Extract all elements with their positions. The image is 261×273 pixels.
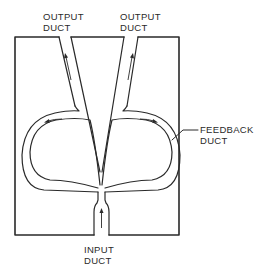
- arrow-up-icon: [100, 208, 104, 228]
- output-duct-label-left-line1: OUTPUT: [43, 11, 84, 22]
- feedback-duct-label-line1: FEEDBACK: [200, 124, 254, 135]
- output-duct-label-left: OUTPUT DUCT: [43, 11, 84, 33]
- output-duct-label-right: OUTPUT DUCT: [120, 11, 161, 33]
- feedback-duct-label-line2: DUCT: [200, 135, 254, 146]
- housing-box: [15, 37, 179, 235]
- feedback-duct-label: FEEDBACK DUCT: [200, 124, 254, 146]
- output-duct-label-left-line2: DUCT: [43, 22, 84, 33]
- output-duct-label-right-line1: OUTPUT: [120, 11, 161, 22]
- output-duct-label-right-line2: DUCT: [120, 22, 161, 33]
- input-duct-label-line1: INPUT: [84, 244, 114, 255]
- flow-arrows: [44, 53, 158, 228]
- input-duct-label-line2: DUCT: [84, 255, 114, 266]
- input-duct-label: INPUT DUCT: [84, 244, 114, 266]
